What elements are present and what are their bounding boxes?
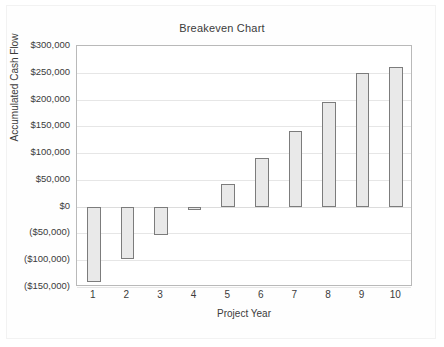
x-tick-label: 4 <box>191 289 197 300</box>
breakeven-chart: Breakeven Chart Accumulated Cash Flow $3… <box>0 0 444 347</box>
bar <box>289 131 302 207</box>
y-tick-label: ($50,000) <box>0 226 70 237</box>
y-tick-label: ($100,000) <box>0 253 70 264</box>
bar <box>188 207 201 210</box>
x-axis-title: Project Year <box>76 308 412 319</box>
bar <box>389 67 402 207</box>
y-tick-label: $0 <box>0 200 70 211</box>
gridline <box>77 260 411 261</box>
x-tick-label: 7 <box>292 289 298 300</box>
plot-area <box>76 45 412 286</box>
bar <box>121 207 134 259</box>
x-tick-label: 1 <box>90 289 96 300</box>
y-tick-label: ($150,000) <box>0 280 70 291</box>
y-tick-label: $150,000 <box>0 119 70 130</box>
y-tick-label: $50,000 <box>0 173 70 184</box>
bar <box>154 207 167 235</box>
y-axis-tick-labels: $300,000$250,000$200,000$150,000$100,000… <box>0 45 70 286</box>
x-tick-label: 5 <box>224 289 230 300</box>
x-tick-label: 10 <box>390 289 401 300</box>
x-tick-label: 6 <box>258 289 264 300</box>
x-axis-tick-labels: 12345678910 <box>76 289 412 305</box>
y-tick-label: $100,000 <box>0 146 70 157</box>
gridline <box>77 287 411 288</box>
bar <box>255 158 268 207</box>
x-tick-label: 9 <box>359 289 365 300</box>
x-tick-label: 2 <box>124 289 130 300</box>
x-tick-label: 3 <box>157 289 163 300</box>
y-tick-label: $300,000 <box>0 39 70 50</box>
bar <box>221 184 234 206</box>
x-tick-label: 8 <box>325 289 331 300</box>
y-tick-label: $200,000 <box>0 93 70 104</box>
bar <box>87 207 100 282</box>
chart-title: Breakeven Chart <box>0 22 444 34</box>
y-tick-label: $250,000 <box>0 66 70 77</box>
bar <box>322 102 335 206</box>
bar <box>356 73 369 207</box>
